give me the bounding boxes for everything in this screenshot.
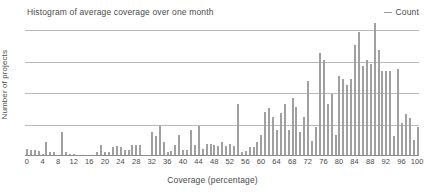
- bar: [139, 145, 141, 155]
- bar: [358, 32, 360, 155]
- x-tick-label: 36: [163, 157, 172, 166]
- bar: [268, 108, 270, 155]
- bar: [100, 145, 102, 155]
- x-tick-label: 92: [382, 157, 391, 166]
- bar: [120, 147, 122, 155]
- bar: [374, 23, 376, 155]
- bar: [319, 53, 321, 155]
- bar: [366, 60, 368, 155]
- x-tick-label: 56: [241, 157, 250, 166]
- bar: [381, 71, 383, 155]
- bar: [225, 146, 227, 155]
- bar: [405, 114, 407, 155]
- bar: [198, 126, 200, 155]
- bar: [276, 130, 278, 155]
- bar: [331, 94, 333, 155]
- bar: [61, 132, 63, 155]
- x-tick-label: 44: [194, 157, 203, 166]
- bar: [174, 145, 176, 155]
- bar: [221, 142, 223, 155]
- x-tick-label: 80: [335, 157, 344, 166]
- bar: [409, 118, 411, 155]
- bar: [217, 146, 219, 155]
- bar: [338, 76, 340, 155]
- bar: [288, 130, 290, 155]
- bar: [307, 81, 309, 155]
- bar: [260, 135, 262, 155]
- x-tick-label: 84: [350, 157, 359, 166]
- legend-item-count-label: Count: [396, 7, 419, 17]
- bar: [393, 136, 395, 155]
- x-tick-label: 96: [397, 157, 406, 166]
- bar: [256, 142, 258, 155]
- x-axis-title: Coverage (percentage): [0, 175, 425, 185]
- bar: [413, 140, 415, 155]
- bar: [362, 66, 364, 155]
- bar: [397, 69, 399, 155]
- bar: [112, 147, 114, 155]
- bar: [389, 71, 391, 155]
- bar: [327, 104, 329, 155]
- bar: [295, 107, 297, 155]
- bar: [116, 146, 118, 155]
- y-axis-title: Number of projects: [0, 50, 14, 119]
- bar: [229, 144, 231, 155]
- x-tick-label: 24: [116, 157, 125, 166]
- bar: [417, 127, 419, 155]
- bar: [237, 104, 239, 155]
- x-tick-label: 0: [25, 157, 29, 166]
- bar: [335, 135, 337, 155]
- x-tick-label: 40: [179, 157, 188, 166]
- bar: [342, 79, 344, 155]
- bar: [280, 113, 282, 155]
- x-axis-ticks: 0481216202428323640444852566064687276808…: [25, 157, 419, 169]
- x-tick-label: 4: [40, 157, 44, 166]
- bar-slot: [416, 28, 420, 155]
- bar: [311, 141, 313, 155]
- x-tick-label: 20: [101, 157, 110, 166]
- bar: [401, 123, 403, 155]
- bar: [163, 142, 165, 155]
- bar: [194, 145, 196, 155]
- x-tick-label: 68: [288, 157, 297, 166]
- x-tick-label: 88: [366, 157, 375, 166]
- x-tick-label: 76: [319, 157, 328, 166]
- legend-line-marker-icon: [384, 12, 392, 13]
- bar: [299, 132, 301, 155]
- bar: [370, 64, 372, 155]
- x-tick-label: 72: [304, 157, 313, 166]
- bar: [210, 144, 212, 155]
- bar: [354, 45, 356, 155]
- bar: [233, 146, 235, 155]
- x-axis-line: [25, 155, 419, 156]
- x-tick-label: 52: [226, 157, 235, 166]
- x-tick-label: 32: [148, 157, 157, 166]
- bar: [213, 145, 215, 155]
- bar: [159, 126, 161, 155]
- x-tick-label: 28: [132, 157, 141, 166]
- bar: [350, 79, 352, 155]
- bar: [292, 98, 294, 155]
- bar: [155, 136, 157, 155]
- bar: [315, 127, 317, 155]
- x-tick-label: 64: [272, 157, 281, 166]
- chart-title: Histogram of average coverage over one m…: [27, 7, 214, 17]
- bar: [249, 147, 251, 155]
- bar: [253, 147, 255, 155]
- bar: [264, 112, 266, 155]
- bar: [323, 60, 325, 155]
- bar: [131, 145, 133, 155]
- x-tick-label: 60: [257, 157, 266, 166]
- bar: [178, 135, 180, 155]
- bar: [151, 132, 153, 155]
- bar: [346, 85, 348, 155]
- bar: [135, 145, 137, 155]
- x-tick-label: 48: [210, 157, 219, 166]
- bar-series-count: [25, 28, 419, 155]
- bar: [378, 50, 380, 155]
- x-tick-label: 100: [411, 157, 424, 166]
- bar: [284, 104, 286, 155]
- legend: Count: [384, 7, 419, 17]
- bar: [206, 144, 208, 155]
- plot-area: [25, 28, 419, 156]
